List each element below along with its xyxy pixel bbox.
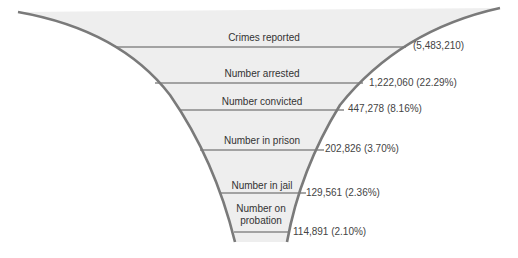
stage-label-line2: probation (236, 215, 285, 227)
stage-label-number-convicted: Number convicted (222, 96, 303, 108)
stage-label-crimes-reported: Crimes reported (228, 32, 300, 44)
stage-value-crimes-reported: (5,483,210) (413, 40, 464, 52)
stage-value-number-in-jail: 129,561 (2.36%) (306, 187, 380, 199)
stage-value-number-convicted: 447,278 (8.16%) (348, 103, 422, 115)
stage-label-line1: Number on (236, 203, 285, 215)
stage-label-number-on-probation: Number on probation (236, 203, 285, 227)
stage-value-number-in-prison: 202,826 (3.70%) (325, 143, 399, 155)
stage-value-number-arrested: 1,222,060 (22.29%) (369, 77, 457, 89)
stage-label-number-in-jail: Number in jail (231, 180, 292, 192)
stage-label-number-arrested: Number arrested (224, 68, 299, 80)
stage-label-number-in-prison: Number in prison (224, 135, 300, 147)
stage-value-number-on-probation: 114,891 (2.10%) (293, 226, 366, 238)
